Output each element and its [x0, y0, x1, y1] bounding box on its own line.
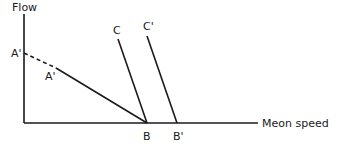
point-label-b: B [143, 130, 151, 143]
point-label-b-prime: B' [173, 130, 184, 143]
x-axis-label: Meon speed [262, 117, 329, 130]
point-label-c-prime: C' [143, 20, 154, 33]
y-axis-label: Flow [12, 1, 37, 14]
line-a-to-b [56, 68, 147, 123]
line-c-prime-to-b-prime [147, 36, 177, 123]
point-label-a-prime-axis: A' [11, 47, 22, 60]
line-c-to-b [118, 39, 147, 123]
point-label-a-prime-line: A' [45, 70, 56, 83]
flow-speed-diagram: Flow Meon speed A' A' B B' C C' [0, 0, 345, 144]
point-label-c: C [113, 24, 121, 37]
dashed-extension-line [24, 53, 56, 68]
